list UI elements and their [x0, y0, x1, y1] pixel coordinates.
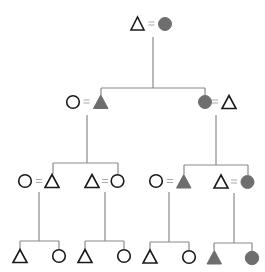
- marriage-equals-icon: [84, 100, 90, 103]
- couple-g2c2: [199, 96, 237, 109]
- triangle-male-icon: [78, 250, 92, 263]
- marriage-equals-icon: [231, 180, 237, 183]
- couple-g3c3: [150, 175, 191, 189]
- triangle-male-icon: [214, 175, 228, 188]
- circle-female-icon: [19, 175, 32, 188]
- circle-female-filled-icon: [245, 251, 258, 264]
- siblings-g4s1: [13, 250, 65, 263]
- triangle-male-filled-icon: [207, 251, 222, 265]
- couple-g2c1: [67, 95, 108, 109]
- marriage-equals-icon: [212, 100, 218, 103]
- circle-female-icon: [150, 175, 163, 188]
- circle-female-icon: [67, 96, 80, 109]
- triangle-male-icon: [45, 175, 59, 188]
- circle-female-filled-icon: [241, 176, 254, 189]
- triangle-male-filled-icon: [94, 95, 109, 109]
- triangle-male-icon: [222, 96, 236, 109]
- siblings-g4s3: [143, 250, 195, 263]
- triangle-male-icon: [85, 175, 99, 188]
- triangle-male-filled-icon: [177, 175, 192, 189]
- generation-4: [13, 250, 259, 265]
- couple-g3c4: [214, 175, 254, 189]
- marriage-equals-icon: [149, 22, 155, 25]
- descent-lines-gen1: [101, 37, 205, 95]
- pedigree-chart: [0, 0, 265, 272]
- couple-g3c2: [85, 175, 124, 188]
- circle-female-icon: [183, 251, 196, 264]
- circle-female-filled-icon: [159, 18, 172, 31]
- circle-female-icon: [53, 250, 66, 263]
- circle-female-icon: [118, 250, 131, 263]
- circle-female-filled-icon: [199, 96, 212, 109]
- couple-g3c1: [19, 175, 59, 188]
- marriage-equals-icon: [102, 180, 108, 183]
- descent-lines-gen3: [20, 192, 252, 251]
- generation-3: [19, 175, 254, 189]
- triangle-male-icon: [131, 17, 144, 30]
- siblings-g4s4: [207, 251, 259, 265]
- triangle-male-icon: [143, 250, 157, 263]
- circle-female-icon: [111, 175, 124, 188]
- descent-lines-gen2: [53, 115, 248, 175]
- marriage-equals-icon: [167, 180, 173, 183]
- generation-1: [131, 17, 172, 31]
- marriage-equals-icon: [36, 180, 42, 183]
- triangle-male-icon: [13, 250, 27, 263]
- kinship-diagram: [0, 0, 265, 272]
- generation-2: [67, 95, 236, 109]
- siblings-g4s2: [78, 250, 130, 263]
